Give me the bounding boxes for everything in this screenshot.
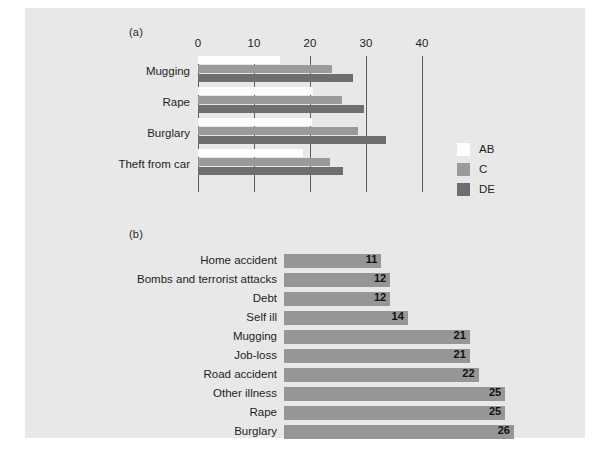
legend-swatch-c: [457, 163, 470, 176]
legend-label-de: DE: [479, 183, 495, 195]
chart-b-value-label: 12: [374, 272, 386, 284]
figure-panel: (a) 010203040 MuggingRapeBurglaryTheft f…: [25, 8, 585, 438]
chart-b-bar: [284, 406, 505, 420]
chart-a-legend-item: C: [457, 159, 495, 179]
chart-b-category-label: Job-loss: [234, 349, 277, 361]
chart-b-bar: [284, 330, 470, 344]
chart-b-plot-area: Home accident11Bombs and terrorist attac…: [284, 254, 514, 444]
chart-a-category-label: Rape: [163, 96, 191, 108]
chart-b-value-label: 25: [489, 405, 501, 417]
chart-a-bar-ab: [198, 149, 303, 157]
chart-b: (b) Home accident11Bombs and terrorist a…: [25, 216, 585, 438]
chart-b-row: Road accident22: [284, 368, 514, 385]
legend-label-ab: AB: [479, 143, 494, 155]
chart-b-category-label: Debt: [253, 292, 277, 304]
chart-b-row: Home accident11: [284, 254, 514, 271]
chart-b-row: Job-loss21: [284, 349, 514, 366]
legend-swatch-de: [457, 183, 470, 196]
chart-a-bar-c: [198, 158, 330, 166]
chart-b-value-label: 22: [462, 367, 474, 379]
chart-a-group: Rape: [198, 87, 422, 117]
chart-b-category-label: Bombs and terrorist attacks: [137, 273, 277, 285]
chart-a-group: Burglary: [198, 118, 422, 148]
chart-a-bar-de: [198, 167, 343, 175]
chart-b-value-label: 21: [454, 348, 466, 360]
chart-b-row: Burglary26: [284, 425, 514, 442]
chart-b-row: Other illness25: [284, 387, 514, 404]
chart-b-value-label: 12: [374, 291, 386, 303]
chart-a-bar-ab: [198, 87, 313, 95]
chart-a-plot-area: 010203040 MuggingRapeBurglaryTheft from …: [198, 56, 422, 184]
chart-a-gridline: 40: [422, 56, 423, 192]
chart-a-bar-ab: [198, 56, 280, 64]
chart-a-bar-c: [198, 96, 342, 104]
chart-a-legend: ABCDE: [457, 139, 495, 199]
chart-a-xtick-label: 20: [304, 37, 317, 49]
chart-b-row: Rape25: [284, 406, 514, 423]
chart-a-category-label: Mugging: [146, 65, 190, 77]
chart-a-legend-item: AB: [457, 139, 495, 159]
chart-b-category-label: Mugging: [233, 330, 277, 342]
chart-a-bar-de: [198, 136, 386, 144]
chart-b-value-label: 26: [498, 424, 510, 436]
chart-b-bar: [284, 311, 408, 325]
chart-a-bar-de: [198, 105, 364, 113]
chart-a-bar-c: [198, 65, 332, 73]
chart-b-bar: [284, 368, 479, 382]
chart-a-bar-c: [198, 127, 358, 135]
chart-b-bar: [284, 387, 505, 401]
chart-a-xtick-label: 0: [195, 37, 201, 49]
legend-label-c: C: [479, 163, 487, 175]
chart-b-row: Self ill14: [284, 311, 514, 328]
chart-b-value-label: 14: [392, 310, 404, 322]
chart-b-bar: [284, 349, 470, 363]
chart-b-bar: [284, 425, 514, 439]
chart-a-category-label: Theft from car: [118, 158, 190, 170]
chart-b-value-label: 25: [489, 386, 501, 398]
chart-a-bar-ab: [198, 118, 312, 126]
panel-a-tag: (a): [129, 26, 143, 38]
chart-a-xtick-label: 10: [248, 37, 261, 49]
chart-b-row: Mugging21: [284, 330, 514, 347]
chart-a-group: Theft from car: [198, 149, 422, 179]
chart-a-xtick-label: 40: [416, 37, 429, 49]
chart-a: (a) 010203040 MuggingRapeBurglaryTheft f…: [25, 8, 585, 218]
chart-a-legend-item: DE: [457, 179, 495, 199]
legend-swatch-ab: [457, 143, 470, 156]
chart-b-category-label: Road accident: [203, 368, 277, 380]
chart-a-bar-de: [198, 74, 353, 82]
chart-b-category-label: Other illness: [213, 387, 277, 399]
chart-b-category-label: Burglary: [234, 425, 277, 437]
chart-b-category-label: Self ill: [246, 311, 277, 323]
chart-b-row: Debt12: [284, 292, 514, 309]
chart-b-row: Bombs and terrorist attacks12: [284, 273, 514, 290]
chart-a-group: Mugging: [198, 56, 422, 86]
chart-a-xtick-label: 30: [360, 37, 373, 49]
chart-b-category-label: Home accident: [200, 254, 277, 266]
panel-b-tag: (b): [129, 228, 143, 240]
chart-b-value-label: 11: [366, 253, 378, 265]
chart-a-category-label: Burglary: [147, 127, 190, 139]
chart-b-value-label: 21: [454, 329, 466, 341]
chart-b-category-label: Rape: [250, 406, 278, 418]
